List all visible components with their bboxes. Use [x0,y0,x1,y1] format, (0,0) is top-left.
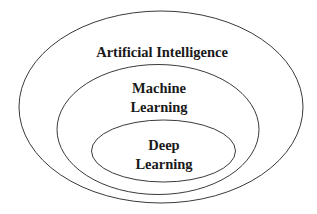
dl-label-line2: Learning [135,156,193,172]
ai-label: Artificial Intelligence [96,44,228,60]
ml-label-line1: Machine [132,80,187,96]
dl-label-line1: Deep [148,137,179,153]
nested-ellipse-diagram: Artificial Intelligence Machine Learning… [0,0,317,214]
ml-label-line2: Learning [130,99,188,115]
